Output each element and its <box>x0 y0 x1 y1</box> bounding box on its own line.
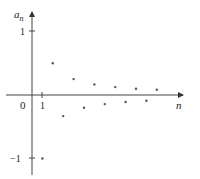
data-point <box>145 100 147 102</box>
data-points <box>41 62 158 160</box>
y-tick-label-neg1: −1 <box>10 153 21 164</box>
data-point <box>62 115 64 117</box>
data-point <box>52 62 54 64</box>
y-axis-label: an <box>14 8 24 23</box>
y-tick-label-1: 1 <box>20 26 25 37</box>
data-point <box>135 88 137 90</box>
data-point <box>104 103 106 105</box>
x-axis-label: n <box>176 99 182 111</box>
data-point <box>41 157 43 159</box>
sequence-plot: an n 0 1 −1 1 <box>0 0 200 179</box>
origin-label: 0 <box>20 99 26 111</box>
axes <box>6 12 183 175</box>
data-point <box>156 89 158 91</box>
data-point <box>114 86 116 88</box>
data-point <box>83 107 85 109</box>
x-tick-label-1: 1 <box>40 100 45 111</box>
data-point <box>72 78 74 80</box>
data-point <box>124 101 126 103</box>
data-point <box>93 83 95 85</box>
